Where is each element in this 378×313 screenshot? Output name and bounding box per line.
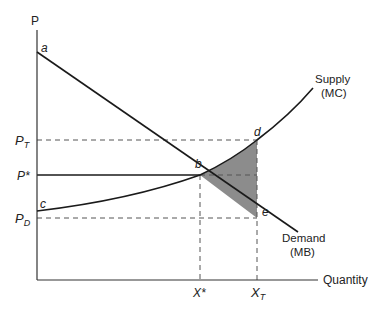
supply-mc-label: (MC): [321, 87, 347, 99]
demand-label: Demand: [282, 232, 325, 244]
point-b-label: b: [195, 157, 202, 171]
tax-diagram: P Quantity PT P* PD X* XT a b c d e Supp…: [0, 0, 378, 313]
x-tax-label: XT: [250, 285, 267, 302]
p-demand-label: PD: [15, 211, 31, 228]
x-star-label: X*: [192, 286, 206, 300]
point-e-label: e: [262, 205, 269, 219]
x-axis-label: Quantity: [323, 273, 368, 287]
y-axis-label: P: [31, 14, 39, 28]
point-d-label: d: [254, 125, 261, 139]
p-star-label: P*: [17, 169, 30, 183]
supply-curve: [37, 88, 313, 211]
deadweight-loss-area: [200, 140, 257, 218]
p-tax-label: PT: [15, 133, 31, 150]
point-c-label: c: [40, 197, 46, 211]
point-a-label: a: [41, 41, 48, 55]
supply-label: Supply: [315, 73, 350, 85]
demand-mb-label: (MB): [290, 246, 315, 258]
